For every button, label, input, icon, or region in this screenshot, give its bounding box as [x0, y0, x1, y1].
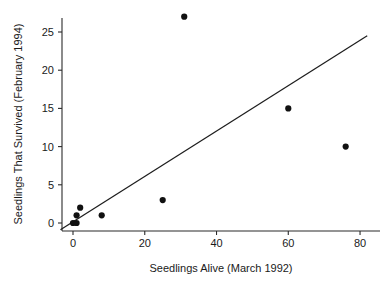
data-point — [160, 197, 166, 203]
x-tick-label-0: 0 — [70, 237, 76, 249]
regression-line — [60, 36, 367, 230]
data-point — [99, 212, 105, 218]
y-tick-label-15: 15 — [42, 102, 54, 114]
y-tick-label-10: 10 — [42, 141, 54, 153]
data-point — [343, 144, 349, 150]
data-point — [285, 105, 291, 111]
scatter-plot-figure: 0510152025 020406080 Seedlings Alive (Ma… — [0, 0, 386, 292]
data-point — [181, 14, 187, 20]
x-axis-tick-labels: 020406080 — [70, 237, 366, 249]
y-tick-label-0: 0 — [48, 217, 54, 229]
y-tick-label-20: 20 — [42, 64, 54, 76]
x-tick-label-20: 20 — [139, 237, 151, 249]
x-tick-label-80: 80 — [354, 237, 366, 249]
data-point — [77, 205, 83, 211]
data-point — [73, 220, 79, 226]
data-point — [73, 212, 79, 218]
y-axis-ticks — [58, 32, 62, 223]
plot-canvas: 0510152025 020406080 Seedlings Alive (Ma… — [0, 0, 386, 292]
x-tick-label-40: 40 — [210, 237, 222, 249]
data-point-group — [70, 14, 349, 226]
y-axis-title: Seedlings That Survived (February 1994) — [12, 24, 24, 225]
y-axis-tick-labels: 0510152025 — [42, 26, 54, 229]
x-axis-ticks — [73, 231, 360, 235]
x-axis-title: Seedlings Alive (March 1992) — [149, 262, 292, 274]
x-tick-label-60: 60 — [282, 237, 294, 249]
y-tick-label-5: 5 — [48, 179, 54, 191]
y-tick-label-25: 25 — [42, 26, 54, 38]
